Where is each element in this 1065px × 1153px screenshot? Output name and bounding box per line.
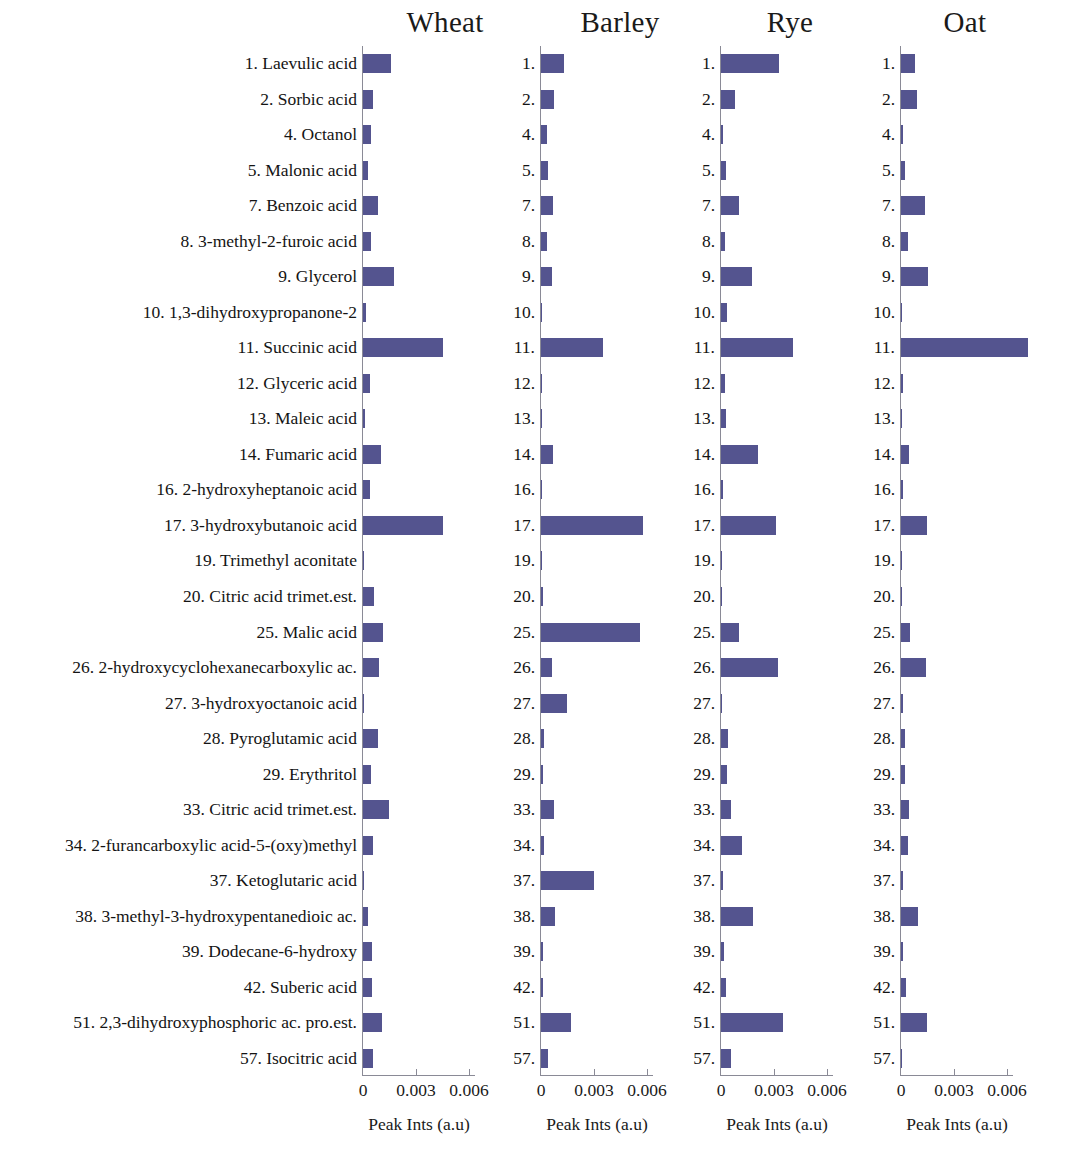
bar bbox=[363, 942, 372, 961]
bar-row bbox=[363, 721, 500, 757]
bar-row bbox=[721, 46, 858, 82]
category-row: 51. bbox=[858, 1005, 900, 1041]
category-row: 9. bbox=[678, 259, 720, 295]
category-row: 57. Isocitric acid bbox=[0, 1040, 362, 1076]
category-label: 9. bbox=[522, 266, 540, 287]
category-row: 4. bbox=[500, 117, 540, 153]
category-label: 37. bbox=[693, 870, 720, 891]
category-label: 13. bbox=[873, 408, 900, 429]
bar-row bbox=[363, 153, 500, 189]
bar-row bbox=[541, 508, 678, 544]
bar bbox=[901, 587, 902, 606]
bar-row bbox=[541, 650, 678, 686]
bar bbox=[363, 658, 379, 677]
bar-row bbox=[541, 898, 678, 934]
bar-row bbox=[721, 153, 858, 189]
x-axis-title-barley: Peak Ints (a.u) bbox=[527, 1113, 667, 1135]
bar bbox=[721, 267, 752, 286]
category-row: 19. Trimethyl aconitate bbox=[0, 543, 362, 579]
category-row: 19. bbox=[858, 543, 900, 579]
category-row: 38. 3-methyl-3-hydroxypentanedioic ac. bbox=[0, 898, 362, 934]
bar bbox=[901, 480, 903, 499]
category-row: 10. bbox=[500, 295, 540, 331]
bar-row bbox=[901, 46, 1065, 82]
bar-row bbox=[721, 1040, 858, 1076]
x-tick-oat-1 bbox=[954, 1069, 955, 1076]
category-label: 28. bbox=[873, 728, 900, 749]
bar bbox=[541, 551, 542, 570]
category-label: 4. Octanol bbox=[284, 124, 362, 145]
bar-row bbox=[901, 827, 1065, 863]
bar bbox=[363, 267, 394, 286]
bar bbox=[541, 800, 554, 819]
category-row: 12. bbox=[858, 366, 900, 402]
category-row: 42. bbox=[500, 969, 540, 1005]
category-label: 4. bbox=[702, 124, 720, 145]
bar bbox=[721, 694, 722, 713]
category-row: 34. bbox=[678, 827, 720, 863]
bar bbox=[901, 942, 903, 961]
bar bbox=[541, 587, 543, 606]
bar-row bbox=[721, 721, 858, 757]
bar bbox=[541, 125, 547, 144]
bar-row bbox=[363, 366, 500, 402]
bar bbox=[363, 623, 383, 642]
category-label: 51. bbox=[873, 1012, 900, 1033]
bar bbox=[901, 90, 917, 109]
bar-row bbox=[541, 153, 678, 189]
x-ticklabel: 0.006 bbox=[449, 1079, 488, 1101]
bar-row bbox=[363, 437, 500, 473]
category-label: 11. bbox=[514, 337, 540, 358]
category-row: 57. bbox=[500, 1040, 540, 1076]
category-label: 34. 2-furancarboxylic acid-5-(oxy)methyl bbox=[65, 835, 362, 856]
x-ticklabel: 0.003 bbox=[754, 1079, 793, 1101]
bar-row bbox=[363, 969, 500, 1005]
category-label: 20. Citric acid trimet.est. bbox=[183, 586, 362, 607]
category-label: 1. Laevulic acid bbox=[245, 53, 362, 74]
category-row: 37. Ketoglutaric acid bbox=[0, 863, 362, 899]
x-ticklabels-oat: 00.0030.006 bbox=[901, 1079, 1039, 1103]
category-row: 13. bbox=[858, 401, 900, 437]
x-ticklabel: 0 bbox=[717, 1079, 726, 1101]
bar bbox=[721, 623, 739, 642]
bar bbox=[721, 125, 723, 144]
category-label: 12. bbox=[873, 373, 900, 394]
category-label: 33. bbox=[693, 799, 720, 820]
panel-wheat: 1. Laevulic acid2. Sorbic acid4. Octanol… bbox=[0, 46, 500, 1076]
category-label: 12. Glyceric acid bbox=[237, 373, 362, 394]
x-ticklabel: 0.006 bbox=[807, 1079, 846, 1101]
bar bbox=[363, 765, 371, 784]
category-label: 8. 3-methyl-2-furoic acid bbox=[181, 231, 362, 252]
x-axis-oat bbox=[901, 1075, 1013, 1076]
bar-row bbox=[541, 863, 678, 899]
category-row: 12. Glyceric acid bbox=[0, 366, 362, 402]
bar bbox=[721, 587, 722, 606]
bar bbox=[901, 1013, 927, 1032]
category-label: 28. Pyroglutamic acid bbox=[203, 728, 362, 749]
category-row: 9. bbox=[858, 259, 900, 295]
category-label: 2. bbox=[882, 89, 900, 110]
category-label: 9. Glycerol bbox=[278, 266, 362, 287]
bar-row bbox=[541, 1040, 678, 1076]
category-label: 26. bbox=[513, 657, 540, 678]
bar-row bbox=[541, 756, 678, 792]
bar-row bbox=[901, 259, 1065, 295]
category-label: 11. Succinic acid bbox=[238, 337, 362, 358]
bar-row bbox=[363, 614, 500, 650]
bar-row bbox=[901, 82, 1065, 118]
category-row: 26. bbox=[858, 650, 900, 686]
category-label: 38. bbox=[513, 906, 540, 927]
bar-row bbox=[541, 969, 678, 1005]
bar bbox=[901, 694, 903, 713]
bar-row bbox=[541, 543, 678, 579]
category-label: 17. bbox=[693, 515, 720, 536]
x-axis-title-rye: Peak Ints (a.u) bbox=[707, 1113, 847, 1135]
bar bbox=[901, 871, 903, 890]
bar-row bbox=[721, 863, 858, 899]
category-row: 13. bbox=[678, 401, 720, 437]
bar bbox=[901, 196, 925, 215]
category-row: 34. bbox=[500, 827, 540, 863]
x-ticklabels-rye: 00.0030.006 bbox=[721, 1079, 859, 1103]
bar-row bbox=[901, 969, 1065, 1005]
bar bbox=[721, 90, 735, 109]
